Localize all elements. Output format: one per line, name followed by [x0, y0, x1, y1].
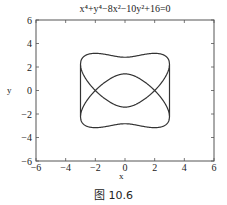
y-tick-label: −6 — [21, 156, 32, 167]
axis-ticks: −6−4−20246−6−4−20246 — [21, 15, 216, 174]
x-tick-label: −6 — [31, 162, 42, 173]
y-tick-label: 2 — [27, 62, 32, 73]
y-axis-label: y — [7, 85, 12, 95]
x-tick-label: 2 — [152, 162, 157, 173]
plot-area: −6−4−20246−6−4−20246 — [0, 0, 227, 205]
x-axis-label: x — [119, 171, 124, 181]
y-tick-label: 0 — [27, 85, 32, 96]
figure-caption: 图 10.6 — [0, 186, 227, 202]
x-tick-label: 4 — [182, 162, 187, 173]
x-tick-label: 6 — [212, 162, 217, 173]
axes-frame — [36, 20, 214, 161]
y-tick-label: −2 — [21, 109, 32, 120]
y-tick-label: 4 — [27, 38, 32, 49]
curve-line — [81, 53, 170, 127]
x-tick-label: −2 — [90, 162, 101, 173]
y-tick-label: 6 — [27, 15, 32, 26]
x-tick-label: −4 — [60, 162, 71, 173]
chart-figure: x⁴+y⁴−8x²−10y²+16=0 −6−4−20246−6−4−20246… — [0, 0, 227, 205]
y-tick-label: −4 — [21, 132, 32, 143]
